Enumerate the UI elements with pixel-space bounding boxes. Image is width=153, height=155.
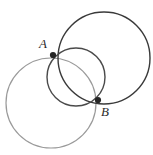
circles-diagram-svg: A B (0, 0, 153, 155)
geometry-figure: A B (0, 0, 153, 155)
figure-background (0, 0, 153, 155)
intersection-point-b (95, 97, 101, 103)
intersection-point-a (50, 52, 56, 58)
label-point-a: A (38, 36, 47, 51)
label-point-b: B (101, 104, 109, 119)
